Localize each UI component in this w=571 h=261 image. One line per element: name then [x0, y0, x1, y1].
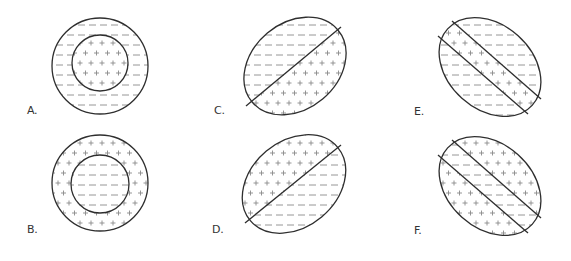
panel-c	[200, 0, 400, 140]
panel-e-label: E.	[414, 106, 424, 117]
panel-b-label: B.	[27, 224, 37, 235]
panel-f	[420, 117, 570, 256]
panel-a-label: A.	[27, 105, 37, 116]
charge-distribution-diagram: A. B. C. D. E. F.	[0, 0, 571, 261]
panel-d	[200, 114, 400, 258]
panel-d-label: D.	[212, 224, 223, 235]
diagram-canvas	[0, 0, 571, 261]
panel-e	[420, 0, 570, 136]
panel-f-label: F.	[414, 225, 421, 236]
panel-a	[52, 18, 148, 114]
panel-c-label: C.	[214, 105, 225, 116]
panel-b	[52, 135, 148, 231]
